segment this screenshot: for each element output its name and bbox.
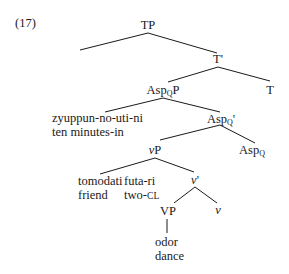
node-vp-little: vP [149, 143, 162, 157]
subject-classifier: futa-ri two-CL [124, 174, 160, 203]
edge-aspp-adjunct [105, 98, 163, 112]
classifier-japanese: futa-ri [124, 174, 160, 188]
edge-tbar-t [218, 67, 270, 81]
node-VP: VP [160, 204, 176, 218]
node-t-bar: T' [213, 52, 223, 66]
example-number: (17) [15, 16, 36, 30]
edge-aspbar-asp [220, 125, 255, 143]
adjunct-phrase: zyuppun-no-uti-ni ten minutes-in [52, 111, 143, 139]
tree-edges [0, 0, 289, 274]
node-tp: TP [141, 18, 156, 32]
subject-noun-japanese: tomodati [78, 174, 122, 188]
edge-vbar-v [195, 187, 217, 203]
verb-gloss: dance [155, 249, 184, 263]
classifier-gloss: two-CL [124, 188, 160, 203]
verb: odor dance [155, 235, 184, 263]
node-v-bar: v' [191, 173, 199, 187]
node-aspq-bar: AspQ' [207, 112, 235, 126]
node-aspq: AspQ [239, 143, 265, 157]
edge-aspp-aspbar [163, 98, 220, 112]
adjunct-gloss: ten minutes-in [52, 125, 143, 139]
edge-tp-spec [80, 33, 148, 50]
edge-tbar-asppp [168, 67, 218, 82]
node-t: T [266, 83, 274, 97]
edge-vbar-VP [174, 187, 195, 203]
edge-vp-subject [100, 158, 155, 174]
node-aspq-p: AspQP [147, 83, 180, 97]
subject-noun: tomodati friend [78, 174, 122, 202]
subject-noun-gloss: friend [78, 188, 122, 202]
edge-vp-vbar [155, 158, 194, 172]
node-v: v [215, 203, 221, 217]
edge-aspbar-vp [160, 125, 220, 140]
verb-japanese: odor [155, 235, 184, 249]
adjunct-japanese: zyuppun-no-uti-ni [52, 111, 143, 125]
edge-tp-tbar [148, 33, 217, 53]
